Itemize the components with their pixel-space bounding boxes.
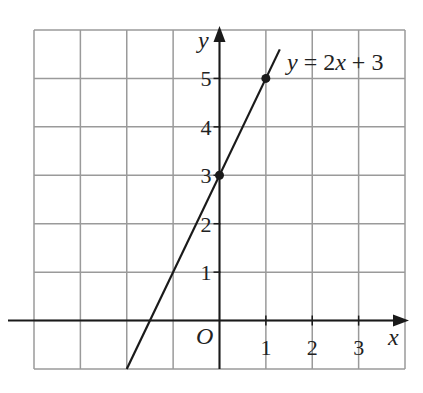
x-axis-label: x bbox=[387, 324, 399, 350]
x-tick-label: 1 bbox=[260, 335, 271, 360]
y-tick-label: 5 bbox=[201, 66, 212, 91]
y-tick-label: 1 bbox=[201, 260, 212, 285]
y-axis-arrow-icon bbox=[214, 26, 226, 42]
origin-label: O bbox=[196, 323, 213, 349]
chart: 12312345 y = 2x + 3 x y O bbox=[0, 0, 423, 393]
data-point bbox=[215, 171, 224, 180]
tick-labels: 12312345 bbox=[201, 66, 365, 359]
y-axis-label: y bbox=[196, 27, 209, 53]
x-tick-label: 2 bbox=[307, 335, 318, 360]
data-point bbox=[261, 74, 270, 83]
y-tick-label: 3 bbox=[201, 163, 212, 188]
y-tick-label: 2 bbox=[201, 212, 212, 237]
y-tick-label: 4 bbox=[201, 115, 212, 140]
x-tick-label: 3 bbox=[353, 335, 364, 360]
equation-label: y = 2x + 3 bbox=[285, 49, 383, 75]
